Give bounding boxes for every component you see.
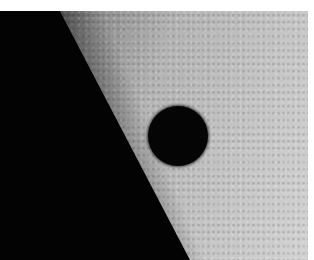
solar-photograph	[0, 11, 308, 260]
transiting-planet-disk	[148, 106, 208, 166]
